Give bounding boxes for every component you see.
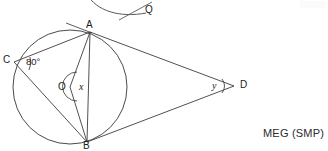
scan-artifact: [300, 1, 326, 8]
point-label-D: D: [240, 80, 247, 90]
segment-OA: [70, 32, 90, 87]
angle-label-80-degrees: 80°: [26, 57, 40, 67]
angle-label-y: y: [212, 81, 216, 91]
point-label-Q: Q: [145, 5, 153, 15]
segment-OB: [70, 87, 87, 142]
diagram-canvas: A C B O D Q 80° x y MEG (SMP): [0, 0, 328, 151]
point-label-C: C: [3, 55, 10, 65]
point-label-B: B: [83, 141, 90, 151]
segment-AB: [87, 32, 90, 142]
point-label-A: A: [86, 20, 93, 30]
point-label-O: O: [58, 82, 66, 92]
segment-CB: [14, 62, 87, 142]
attribution-text: MEG (SMP): [263, 128, 324, 139]
angle-label-x: x: [79, 82, 83, 92]
partial-figure-above: [87, 0, 152, 20]
partial-arc-above: [87, 0, 146, 15]
segment-BD: [87, 86, 234, 142]
segment-AD: [90, 32, 234, 86]
